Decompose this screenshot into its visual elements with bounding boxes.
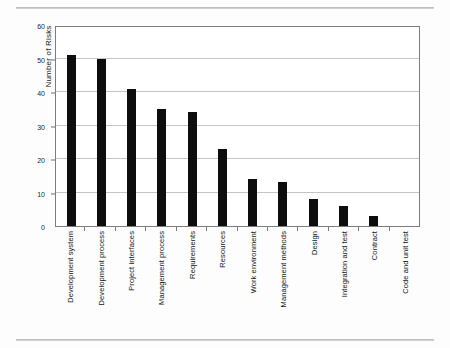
bar-slot	[359, 27, 389, 226]
bar-slot	[298, 27, 328, 226]
bar-chart-figure: Number of Risks 0102030405060 Developmen…	[0, 0, 450, 348]
bar-slot	[147, 27, 177, 226]
x-label-cell: Management process	[146, 231, 176, 335]
bar-slot	[177, 27, 207, 226]
x-label-cell: Requirements	[177, 231, 207, 335]
y-tick-label: 50	[37, 56, 45, 63]
bar	[278, 182, 287, 226]
x-axis-label: Contract	[370, 231, 379, 260]
x-axis-label: Work environment	[248, 231, 257, 293]
x-label-cell: Resources	[207, 231, 237, 335]
bar-slot	[207, 27, 237, 226]
x-axis-label: Design	[309, 231, 318, 255]
bar	[97, 59, 106, 227]
y-tick-label: 20	[37, 157, 45, 164]
x-label-cell: Contract	[359, 231, 389, 335]
y-tick-label: 10	[37, 190, 45, 197]
x-label-cell: Project interfaces	[116, 231, 146, 335]
bar	[309, 199, 318, 226]
x-label-cell: Integration and test	[329, 231, 359, 335]
y-axis-tick-labels: 0102030405060	[0, 26, 51, 227]
bar	[248, 179, 257, 226]
x-label-cell: Management methods	[268, 231, 298, 335]
bar-slot	[389, 27, 419, 226]
y-tick-label: 40	[37, 90, 45, 97]
bar	[188, 112, 197, 226]
y-tick-label: 30	[37, 123, 45, 130]
x-axis-label: Project interfaces	[127, 231, 136, 291]
y-tick-label: 60	[37, 23, 45, 30]
x-axis-label: Management process	[157, 231, 166, 305]
x-axis-label: Development system	[66, 231, 75, 303]
bar	[369, 216, 378, 226]
y-tick-label: 0	[41, 224, 45, 231]
bar-slot	[268, 27, 298, 226]
x-label-cell: Code and unit test	[390, 231, 420, 335]
x-label-cell: Design	[298, 231, 328, 335]
bar	[67, 55, 76, 226]
x-axis-label: Development process	[96, 231, 105, 305]
x-axis-label: Integration and test	[340, 231, 349, 297]
bar-series	[56, 27, 419, 226]
bar	[127, 89, 136, 226]
x-axis-label: Code and unit test	[400, 231, 409, 294]
bar-slot	[56, 27, 86, 226]
bar-slot	[238, 27, 268, 226]
x-axis-label: Management methods	[279, 231, 288, 307]
x-label-cell: Development process	[85, 231, 115, 335]
x-axis-category-labels: Development systemDevelopment processPro…	[55, 231, 420, 335]
bar	[218, 149, 227, 226]
x-label-cell: Work environment	[238, 231, 268, 335]
bar	[339, 206, 348, 226]
bar-slot	[117, 27, 147, 226]
bar	[157, 109, 166, 226]
bar-slot	[328, 27, 358, 226]
plot-area	[55, 26, 420, 227]
x-axis-label: Requirements	[187, 231, 196, 279]
x-label-cell: Development system	[55, 231, 85, 335]
x-axis-label: Resources	[218, 231, 227, 268]
bar-slot	[86, 27, 116, 226]
